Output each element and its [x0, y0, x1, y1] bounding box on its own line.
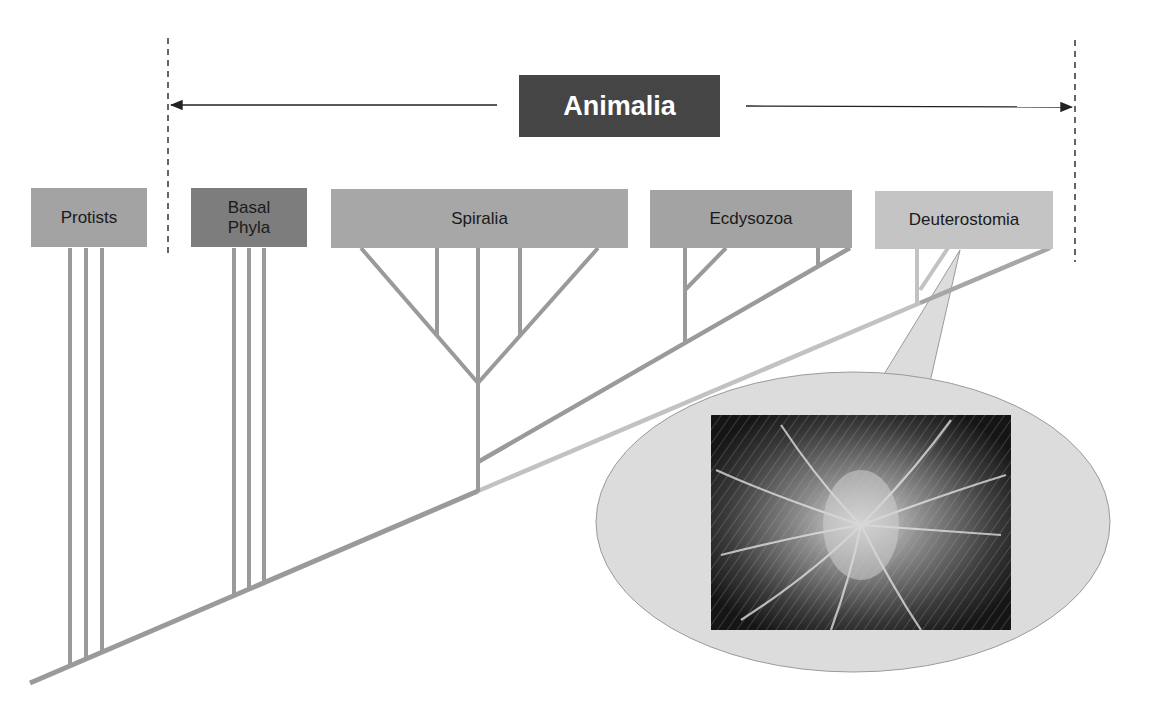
group-spiralia: Spiralia [331, 189, 628, 248]
group-label: Basal Phyla [221, 198, 277, 237]
group-protists: Protists [31, 188, 147, 247]
group-ecdysozoa: Ecdysozoa [650, 190, 852, 248]
group-deuterostomia: Deuterostomia [875, 191, 1053, 249]
group-basal-phyla: Basal Phyla [191, 188, 307, 247]
group-label: Spiralia [451, 209, 508, 229]
group-label: Ecdysozoa [709, 209, 792, 229]
feather-star-photo [711, 415, 1011, 630]
animalia-right-arrow [746, 106, 1072, 107]
group-label: Protists [61, 208, 118, 228]
animalia-title: Animalia [519, 75, 720, 137]
group-label: Deuterostomia [909, 210, 1020, 230]
